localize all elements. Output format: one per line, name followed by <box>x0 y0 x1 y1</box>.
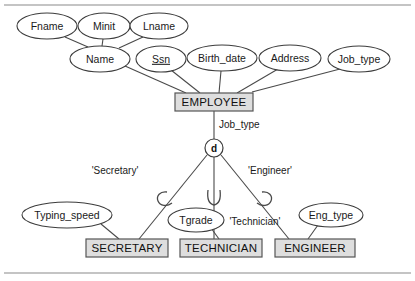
edge-address-employee <box>237 69 278 93</box>
entity-engineer-label: ENGINEER <box>284 242 346 254</box>
attribute-lname-label: Lname <box>143 20 175 32</box>
entity-employee-label: EMPLOYEE <box>182 96 247 108</box>
entity-engineer[interactable]: ENGINEER <box>275 239 355 257</box>
entity-secretary[interactable]: SECRETARY <box>86 239 168 257</box>
specialization-circle-label: d <box>211 143 217 154</box>
attribute-job-type-label: Job_type <box>338 53 381 65</box>
attribute-birth-date-label: Birth_date <box>198 52 246 64</box>
edge-typingspeed-secretary <box>101 224 119 239</box>
entity-technician-label: TECHNICIAN <box>185 242 257 254</box>
edge-minit-name <box>102 39 103 46</box>
attribute-birth-date[interactable]: Birth_date <box>187 45 257 71</box>
entity-employee[interactable]: EMPLOYEE <box>175 93 253 111</box>
er-diagram-canvas: Fname Minit Lname Name Ssn Birth_date Ad… <box>0 0 415 281</box>
attribute-eng-type-label: Eng_type <box>309 209 354 221</box>
attribute-address-label: Address <box>271 52 310 64</box>
attribute-ssn-label: Ssn <box>152 53 170 65</box>
attribute-minit-label: Minit <box>93 20 115 32</box>
specialization-circle-disjoint[interactable]: d <box>205 139 223 157</box>
er-diagram-page: Fname Minit Lname Name Ssn Birth_date Ad… <box>0 0 415 281</box>
attribute-fname-label: Fname <box>31 20 64 32</box>
attribute-tgrade-label: Tgrade <box>179 214 212 226</box>
attribute-name[interactable]: Name <box>70 46 130 72</box>
subset-symbol-engineer-icon <box>257 192 272 206</box>
entity-secretary-label: SECRETARY <box>91 242 162 254</box>
attribute-ssn[interactable]: Ssn <box>136 46 186 72</box>
attribute-lname[interactable]: Lname <box>130 13 188 39</box>
attribute-typing-speed-label: Typing_speed <box>34 209 100 221</box>
attribute-eng-type[interactable]: Eng_type <box>299 203 363 227</box>
predicate-label-secretary: 'Secretary' <box>92 165 139 176</box>
attribute-tgrade[interactable]: Tgrade <box>168 208 224 232</box>
edge-lname-name <box>119 37 143 48</box>
entity-technician[interactable]: TECHNICIAN <box>180 239 262 257</box>
subset-symbol-secretary-icon <box>157 192 172 206</box>
edge-fname-name <box>65 37 88 47</box>
attribute-name-label: Name <box>86 53 114 65</box>
edge-birthdate-employee <box>219 71 221 93</box>
edge-ssn-employee <box>171 70 200 93</box>
attribute-fname[interactable]: Fname <box>17 13 77 39</box>
edge-engtype-engineer <box>308 225 318 239</box>
attribute-typing-speed[interactable]: Typing_speed <box>22 202 112 228</box>
attribute-address[interactable]: Address <box>259 45 321 71</box>
specialization-defining-attribute-label: Job_type <box>219 119 260 130</box>
predicate-label-technician: 'Technician' <box>229 216 280 227</box>
predicate-label-engineer: 'Engineer' <box>248 165 292 176</box>
attribute-minit[interactable]: Minit <box>78 13 130 39</box>
edge-jobtype-employee <box>252 69 340 92</box>
attribute-job-type[interactable]: Job_type <box>328 46 390 72</box>
